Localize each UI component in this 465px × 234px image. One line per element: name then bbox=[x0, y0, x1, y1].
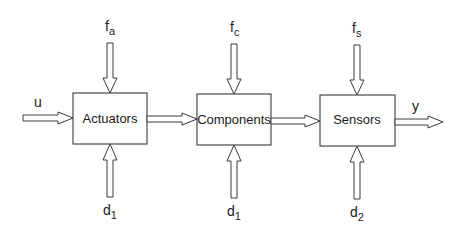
fault-label-fs: fs bbox=[352, 20, 362, 39]
fault-arrow-fa bbox=[103, 43, 117, 93]
fault-arrow-fc bbox=[227, 44, 241, 94]
actuators-label: Actuators bbox=[83, 111, 138, 126]
sensors-label: Sensors bbox=[333, 112, 381, 127]
fault-label-fc: fc bbox=[230, 19, 240, 38]
disturbance-label-d1-actuators: d1 bbox=[103, 202, 117, 221]
output-label-y: y bbox=[412, 98, 419, 114]
components-to-sensors-arrow bbox=[271, 115, 320, 127]
output-arrow-y bbox=[395, 116, 443, 128]
input-label-u: u bbox=[34, 94, 42, 110]
fault-arrow-fs bbox=[350, 45, 364, 95]
input-arrow-u bbox=[23, 112, 73, 124]
fault-label-fa: fa bbox=[105, 18, 116, 37]
disturbance-arrow-d1-actuators bbox=[103, 144, 117, 197]
disturbance-arrow-d1-components bbox=[227, 145, 241, 198]
components-label: Components bbox=[197, 112, 271, 127]
disturbance-label-d1-components: d1 bbox=[227, 203, 241, 222]
disturbance-arrow-d2-sensors bbox=[350, 146, 364, 199]
actuators-to-components-arrow bbox=[147, 113, 197, 125]
fault-diagnosis-block-diagram: u Actuators Components Sensors y fa fc f… bbox=[0, 0, 465, 234]
disturbance-label-d2-sensors: d2 bbox=[350, 204, 364, 223]
